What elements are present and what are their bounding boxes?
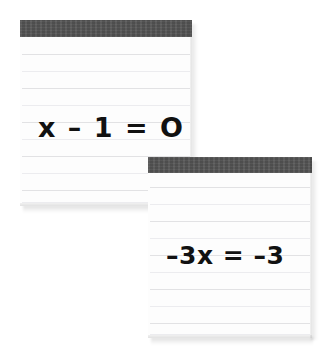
notepad-header-band (20, 20, 192, 37)
notepad-bottom-right[interactable]: –3x = –3 (148, 157, 312, 338)
notepad-bottom-shadow (151, 337, 313, 345)
notepads-scene: x – 1 = O –3x = –3 (0, 0, 334, 355)
notepad-header-band (148, 157, 312, 173)
rule-line (150, 238, 310, 239)
notepad-bottom-edge (148, 335, 312, 338)
equation-text-second-pad: –3x = –3 (166, 241, 284, 270)
rule-line (150, 272, 310, 273)
notepad-right-shadow (311, 161, 318, 340)
rule-line (22, 71, 190, 72)
rule-line (22, 88, 190, 89)
notepad-paper: –3x = –3 (148, 157, 312, 338)
rule-line (150, 289, 310, 290)
rule-line (150, 323, 310, 324)
rule-line (150, 204, 310, 205)
rule-line (150, 306, 310, 307)
rule-line (22, 54, 190, 55)
rule-line (22, 105, 190, 106)
rule-line (150, 187, 310, 188)
equation-text-first-pad: x – 1 = O (38, 112, 184, 143)
rule-line (150, 221, 310, 222)
notepad-right-edge (310, 157, 312, 338)
